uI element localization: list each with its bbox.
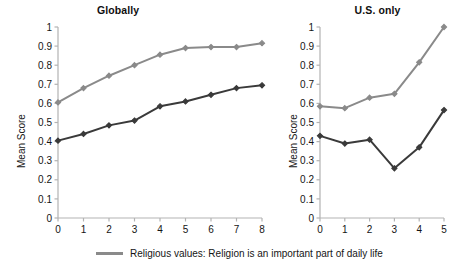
y-tick-label: 0.5: [38, 117, 52, 128]
chart-legend: Religious values: Religion is an importa…: [0, 242, 459, 273]
x-tick-label: 6: [208, 224, 214, 235]
y-tick-label: 0.2: [38, 174, 52, 185]
x-tick-label: 4: [157, 224, 163, 235]
legend-item: Religious values: Religion is an importa…: [96, 248, 383, 259]
chart-panel-globally: Globally Mean Score 00.10.20.30.40.50.60…: [0, 0, 272, 240]
y-tick-label: 0.8: [300, 60, 314, 71]
y-tick-label: 0.2: [300, 174, 314, 185]
y-tick-label: 0.1: [38, 194, 52, 205]
x-tick-label: 1: [342, 224, 348, 235]
x-tick-label: 7: [234, 224, 240, 235]
y-tick-label: 0.4: [38, 136, 52, 147]
series-line-1: [58, 85, 262, 140]
data-point-marker: [342, 141, 347, 146]
y-tick-label: 0.3: [300, 155, 314, 166]
y-tick-label: 0: [46, 213, 52, 224]
y-axis-title-us-only: Mean Score: [288, 114, 299, 168]
legend-line-swatch-icon: [96, 252, 123, 255]
y-tick-label: 0.6: [300, 98, 314, 109]
x-tick-label: 0: [317, 224, 323, 235]
data-point-marker: [106, 123, 111, 128]
data-point-marker: [183, 45, 188, 50]
legend-item-label: Religious values: Religion is an importa…: [130, 248, 383, 259]
y-tick-label: 0.9: [38, 41, 52, 52]
y-tick-label: 0.7: [38, 79, 52, 90]
x-tick-label: 1: [81, 224, 87, 235]
x-tick-label: 0: [55, 224, 61, 235]
data-point-marker: [81, 131, 86, 136]
y-tick-label: 0.5: [300, 117, 314, 128]
data-point-marker: [55, 138, 60, 143]
x-tick-label: 4: [416, 224, 422, 235]
x-tick-label: 3: [392, 224, 398, 235]
x-tick-label: 3: [132, 224, 138, 235]
y-tick-label: 1: [46, 22, 52, 33]
y-tick-label: 0.1: [300, 194, 314, 205]
x-tick-label: 2: [106, 224, 112, 235]
series-line-0: [320, 27, 444, 108]
x-tick-label: 5: [183, 224, 189, 235]
data-point-marker: [259, 41, 264, 46]
data-point-marker: [317, 133, 322, 138]
data-point-marker: [208, 44, 213, 49]
data-point-marker: [234, 86, 239, 91]
data-point-marker: [317, 104, 322, 109]
y-tick-label: 0.6: [38, 98, 52, 109]
y-tick-label: 0.9: [300, 41, 314, 52]
chart-panel-us-only: U.S. only 00.10.20.30.40.50.60.70.80.910…: [272, 0, 459, 240]
x-tick-label: 2: [367, 224, 373, 235]
y-tick-label: 0.8: [38, 60, 52, 71]
x-tick-label: 8: [259, 224, 265, 235]
plot-area-us-only: 00.10.20.30.40.50.60.70.80.91012345: [272, 0, 459, 240]
y-tick-label: 0.3: [38, 155, 52, 166]
y-tick-label: 1: [308, 22, 314, 33]
y-tick-label: 0.4: [300, 136, 314, 147]
data-point-marker: [183, 99, 188, 104]
figure-container: Globally Mean Score 00.10.20.30.40.50.60…: [0, 0, 459, 273]
data-point-marker: [234, 44, 239, 49]
data-point-marker: [259, 83, 264, 88]
data-point-marker: [208, 92, 213, 97]
plot-area-globally: 00.10.20.30.40.50.60.70.80.91012345678: [0, 0, 272, 240]
y-tick-label: 0: [308, 213, 314, 224]
y-tick-label: 0.7: [300, 79, 314, 90]
x-tick-label: 5: [441, 224, 447, 235]
series-line-1: [320, 110, 444, 168]
